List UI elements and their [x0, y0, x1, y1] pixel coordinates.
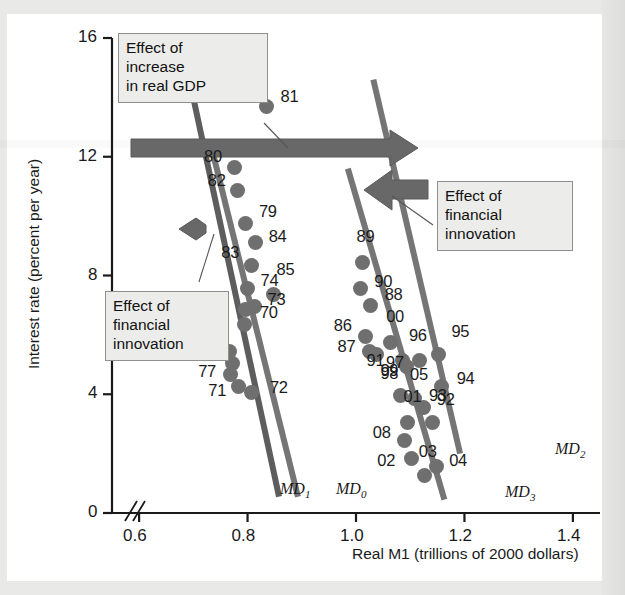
point-label-05: 05	[410, 365, 428, 384]
point-label-00: 00	[386, 307, 404, 326]
fin-innovation-shift-arrow-left	[179, 218, 206, 240]
y-tick-label: 4	[88, 383, 97, 403]
point-label-89: 89	[357, 227, 375, 246]
chart-page: Interest rate (percent per year) Real M1…	[0, 0, 625, 595]
data-point	[355, 255, 370, 270]
x-axis-label: Real M1 (trillions of 2000 dollars)	[352, 545, 579, 563]
curve-label-md3: MD3	[505, 483, 535, 503]
callout-gdp-effect: Effect of increase in real GDP	[118, 33, 268, 103]
demand-curves	[187, 68, 460, 500]
point-label-86: 86	[334, 316, 352, 335]
x-axis-ticks	[139, 513, 573, 522]
data-point	[397, 433, 412, 448]
x-tick-label: 1.2	[448, 526, 472, 546]
point-label-80: 80	[204, 147, 222, 166]
data-point	[227, 160, 242, 175]
y-axis-ticks	[103, 38, 112, 513]
point-label-94: 94	[457, 369, 475, 388]
x-tick-label: 0.8	[232, 526, 256, 546]
point-label-04: 04	[449, 451, 467, 470]
data-point	[431, 347, 446, 362]
point-label-84: 84	[269, 227, 287, 246]
point-label-72: 72	[270, 378, 288, 397]
x-tick-label: 1.0	[340, 526, 364, 546]
curve-label-md0: MD0	[336, 480, 366, 500]
point-label-08: 08	[373, 423, 391, 442]
point-label-01: 01	[404, 387, 422, 406]
data-point	[244, 258, 259, 273]
point-label-83: 83	[221, 243, 239, 262]
point-label-95: 95	[451, 322, 469, 341]
y-tick-label: 8	[88, 265, 97, 285]
chart-axes	[112, 38, 600, 521]
y-tick-label: 12	[78, 146, 97, 166]
curve-label-md2: MD2	[555, 440, 585, 460]
point-label-82: 82	[208, 171, 226, 190]
y-tick-label: 16	[78, 27, 97, 47]
point-label-93: 93	[429, 386, 447, 405]
point-label-98: 98	[380, 364, 398, 383]
point-label-03: 03	[419, 442, 437, 461]
data-point	[363, 298, 378, 313]
y-tick-label: 0	[88, 502, 97, 522]
point-label-87: 87	[338, 337, 356, 356]
curve-label-md1: MD1	[280, 480, 310, 500]
point-label-81: 81	[281, 87, 299, 106]
shift-arrows	[131, 130, 428, 240]
point-label-77: 77	[198, 362, 216, 381]
point-label-71: 71	[208, 381, 226, 400]
callout-financial-innovation-left: Effect of financial innovation	[105, 291, 229, 361]
callout-financial-innovation-right: Effect of financial innovation	[437, 181, 573, 251]
point-label-02: 02	[377, 451, 395, 470]
x-tick-label: 1.4	[557, 526, 581, 546]
x-tick-label: 0.6	[123, 526, 147, 546]
data-point	[383, 335, 398, 350]
point-label-88: 88	[385, 285, 403, 304]
point-label-96: 96	[409, 326, 427, 345]
data-point	[400, 415, 415, 430]
point-label-85: 85	[277, 260, 295, 279]
y-axis-label: Interest rate (percent per year)	[25, 134, 43, 394]
point-label-79: 79	[259, 202, 277, 221]
data-point	[404, 451, 419, 466]
point-label-70: 70	[260, 303, 278, 322]
gdp-shift-arrow	[131, 130, 418, 166]
